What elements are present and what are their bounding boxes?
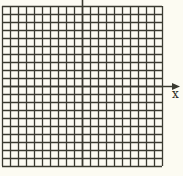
coordinate-grid — [0, 0, 183, 176]
x-axis-label: x — [172, 88, 179, 100]
